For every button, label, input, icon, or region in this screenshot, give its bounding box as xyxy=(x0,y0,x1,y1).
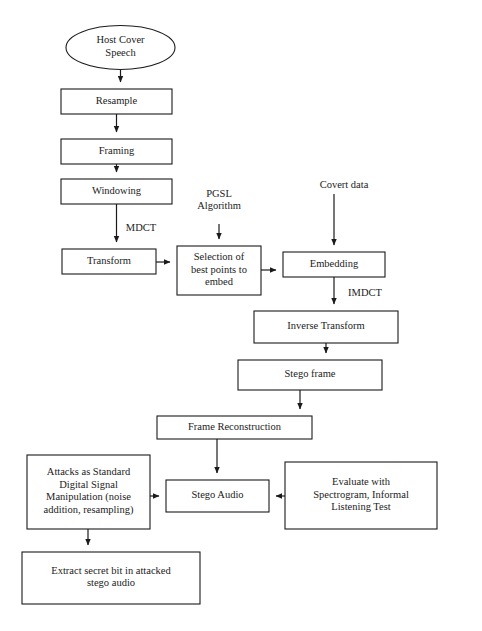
node-framing[interactable]: Framing xyxy=(61,139,172,164)
mdct-label: MDCT xyxy=(126,222,157,233)
resample-label: Resample xyxy=(96,95,138,106)
framing-label: Framing xyxy=(99,145,135,156)
node-inverse-transform[interactable]: Inverse Transform xyxy=(254,311,398,343)
flowchart-svg: Host CoverSpeechResampleFramingWindowing… xyxy=(0,0,482,631)
node-extract-secret-bit[interactable]: Extract secret bit in attackedstego audi… xyxy=(22,552,200,604)
pgsl-algorithm-label-label: PGSLAlgorithm xyxy=(197,188,241,212)
mdct-label-label: MDCT xyxy=(126,222,157,233)
stego-audio-label: Stego Audio xyxy=(191,489,243,500)
pgsl-algorithm-label: PGSLAlgorithm xyxy=(197,188,241,212)
embedding-label: Embedding xyxy=(310,258,359,269)
node-attacks-as-standard-dsp[interactable]: Attacks as StandardDigital SignalManipul… xyxy=(27,455,150,529)
flowchart-canvas: Host CoverSpeechResampleFramingWindowing… xyxy=(0,0,482,631)
transform-label: Transform xyxy=(87,255,131,266)
stego-frame-label: Stego frame xyxy=(284,368,335,379)
windowing-label: Windowing xyxy=(92,185,142,196)
node-windowing[interactable]: Windowing xyxy=(61,179,172,204)
node-stego-audio[interactable]: Stego Audio xyxy=(166,480,269,512)
node-evaluate-with-spectrogram[interactable]: Evaluate withSpectrogram, InformalListen… xyxy=(285,462,437,529)
node-resample[interactable]: Resample xyxy=(61,89,172,114)
covert-data-label-label: Covert data xyxy=(320,179,369,190)
node-selection-of-best-points[interactable]: Selection ofbest points toembed xyxy=(177,246,261,295)
attacks-as-standard-dsp-label: Attacks as StandardDigital SignalManipul… xyxy=(44,467,134,517)
node-frame-reconstruction[interactable]: Frame Reconstruction xyxy=(157,416,312,439)
nodes-layer: Host CoverSpeechResampleFramingWindowing… xyxy=(22,26,437,605)
covert-data-label: Covert data xyxy=(320,179,369,190)
node-transform[interactable]: Transform xyxy=(62,249,156,274)
frame-reconstruction-label: Frame Reconstruction xyxy=(188,421,282,432)
inverse-transform-label: Inverse Transform xyxy=(287,320,364,331)
node-host-cover-speech[interactable]: Host CoverSpeech xyxy=(66,26,175,70)
node-stego-frame[interactable]: Stego frame xyxy=(238,360,382,390)
imdct-label: IMDCT xyxy=(348,287,382,298)
imdct-label-label: IMDCT xyxy=(348,287,382,298)
node-embedding[interactable]: Embedding xyxy=(283,252,385,277)
